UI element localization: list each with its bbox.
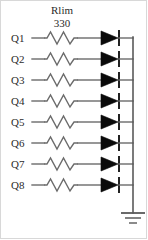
schematic-canvas: Rlim 330 Q1 Q2 xyxy=(0,0,148,240)
resistor-value-label: 330 xyxy=(54,17,71,29)
channel-row: Q5 xyxy=(11,114,133,130)
channel-row: Q2 xyxy=(11,51,133,67)
channel-row: Q3 xyxy=(11,72,133,88)
channel-row: Q6 xyxy=(11,135,133,151)
resistor-symbol xyxy=(44,53,78,65)
pin-label-q1: Q1 xyxy=(11,32,24,44)
resistor-symbol xyxy=(44,179,78,191)
pin-label-q3: Q3 xyxy=(11,74,25,86)
pin-label-q6: Q6 xyxy=(11,137,25,149)
channel-rows: Q1 Q2 Q3 xyxy=(11,30,133,193)
pin-label-q2: Q2 xyxy=(11,53,24,65)
diode-symbol xyxy=(101,52,118,66)
channel-row: Q1 xyxy=(11,30,133,46)
resistor-symbol xyxy=(44,116,78,128)
ground-symbol xyxy=(121,213,145,223)
channel-row: Q7 xyxy=(11,156,133,172)
diode-symbol xyxy=(101,31,118,45)
diode-symbol xyxy=(101,115,118,129)
diode-symbol xyxy=(101,178,118,192)
diode-symbol xyxy=(101,136,118,150)
resistor-symbol xyxy=(44,158,78,170)
diode-symbol xyxy=(101,94,118,108)
channel-row: Q8 xyxy=(11,177,133,193)
resistor-symbol xyxy=(44,74,78,86)
resistor-designator-label: Rlim xyxy=(51,4,73,16)
resistor-symbol xyxy=(44,95,78,107)
diode-symbol xyxy=(101,157,118,171)
channel-row: Q4 xyxy=(11,93,133,109)
diode-symbol xyxy=(101,73,118,87)
pin-label-q7: Q7 xyxy=(11,158,25,170)
circuit-schematic: Rlim 330 Q1 Q2 xyxy=(0,0,148,240)
pin-label-q4: Q4 xyxy=(11,95,25,107)
resistor-symbol xyxy=(44,137,78,149)
resistor-symbol xyxy=(44,32,78,44)
pin-label-q8: Q8 xyxy=(11,179,25,191)
pin-label-q5: Q5 xyxy=(11,116,25,128)
